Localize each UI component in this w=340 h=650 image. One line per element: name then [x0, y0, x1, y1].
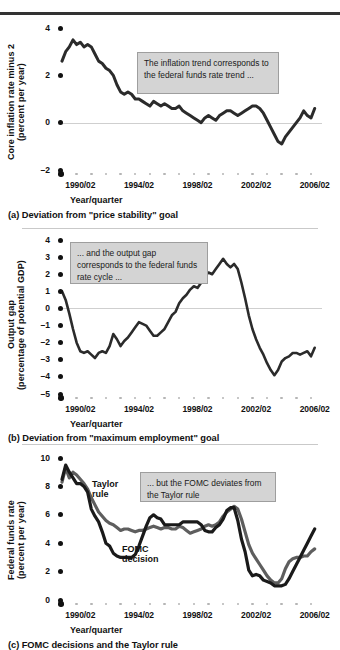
- panel-a-x-tick-dot-minor: [222, 173, 225, 176]
- panel-c-x-tick-dot-minor: [207, 603, 210, 606]
- panel-a-y-axis-label: Core inflation rate minus 2 (percent per…: [6, 28, 32, 176]
- panel-b-y-tick-label: –5: [30, 390, 50, 399]
- panel-a: Core inflation rate minus 2 (percent per…: [0, 22, 340, 212]
- panel-b-x-tick-dot-minor: [90, 397, 93, 400]
- panel-b-y-tick-dot: [58, 272, 63, 277]
- panel-c-x-tick-dot-minor: [119, 603, 122, 606]
- panel-b-x-tick-dot-minor: [237, 397, 240, 400]
- panel-c-x-tick-dot-minor: [310, 603, 313, 606]
- panel-a-x-tick-dot-minor: [90, 173, 93, 176]
- panel-c-x-tick-dot-minor: [134, 603, 137, 606]
- panel-a-x-tick-dot-minor: [295, 173, 298, 176]
- panel-b-y-tick-label: 4: [30, 236, 50, 245]
- panel-b-y-tick-label: 2: [30, 270, 50, 279]
- panel-b-x-tick-dot-minor: [105, 397, 108, 400]
- panel-a-x-tick-dot-minor: [149, 173, 152, 176]
- panel-a-x-tick-dot-minor: [119, 173, 122, 176]
- panel-a-callout: The inflation trend corresponds to the f…: [137, 52, 279, 94]
- panel-b-x-tick-dot-minor: [119, 397, 122, 400]
- panel-a-x-tick-label: 2006/02: [300, 180, 330, 190]
- panel-c-y-axis-label-line1: Federal funds rate: [6, 500, 16, 580]
- panel-b: Output gap (percentage of potential GDP)…: [0, 236, 340, 432]
- panel-a-x-tick-label: 1994/02: [124, 180, 154, 190]
- panel-c-x-tick-dot-minor: [280, 603, 283, 606]
- panel-c-y-tick-label: 6: [30, 510, 50, 519]
- panel-b-x-tick-dot-minor: [207, 397, 210, 400]
- panel-a-y-axis-label-line2: (percent per year): [16, 63, 26, 141]
- panel-a-x-axis-origin-dot: [58, 171, 64, 177]
- panel-b-x-tick-dot-minor: [310, 397, 313, 400]
- panel-b-y-axis-label: Output gap (percentage of potential GDP): [6, 240, 32, 410]
- panel-a-y-tick-dot: [58, 26, 63, 31]
- panel-c-y-tick-label: 4: [30, 539, 50, 548]
- panel-a-y-tick-label: –2: [30, 166, 50, 175]
- panel-c-y-axis-label: Federal funds rate (percent per year): [6, 474, 32, 606]
- panel-divider-rule-2: [22, 444, 318, 445]
- panel-c-x-tick-dot-minor: [163, 603, 166, 606]
- panel-a-y-tick-label: 2: [30, 71, 50, 80]
- panel-b-y-tick-label: 3: [30, 253, 50, 262]
- panel-b-y-tick-label: –2: [30, 338, 50, 347]
- panel-b-callout: ... and the output gap corresponds to th…: [70, 242, 208, 284]
- panel-a-x-tick-dot-minor: [163, 173, 166, 176]
- panel-a-x-tick-dot-minor: [310, 173, 313, 176]
- panel-b-x-tick-label: 1994/02: [124, 404, 154, 414]
- panel-a-y-tick-dot: [58, 73, 63, 78]
- panel-c-x-tick-dot-minor: [266, 603, 269, 606]
- panel-c-y-tick-label: 0: [30, 596, 50, 605]
- panel-b-caption: (b) Deviation from "maximum employment" …: [8, 433, 219, 443]
- panel-a-x-tick-dot-minor: [105, 173, 108, 176]
- panel-b-y-tick-dot: [58, 255, 63, 260]
- panel-b-y-tick-dot: [58, 306, 63, 311]
- panel-b-y-tick-dot: [58, 289, 63, 294]
- panel-b-x-tick-dot-minor: [193, 397, 196, 400]
- panel-a-y-tick-label: 4: [30, 24, 50, 33]
- top-divider-rule: [0, 12, 340, 15]
- panel-c-y-tick-dot: [58, 541, 63, 546]
- panel-a-x-tick-dot-minor: [178, 173, 181, 176]
- panel-c: Federal funds rate (percent per year) ..…: [0, 452, 340, 642]
- panel-c-x-tick-dot-minor: [75, 603, 78, 606]
- panel-b-x-tick-dot-minor: [178, 397, 181, 400]
- panel-c-x-tick-label: 1998/02: [182, 610, 212, 620]
- panel-a-x-tick-dot-minor: [237, 173, 240, 176]
- panel-b-y-tick-label: 1: [30, 287, 50, 296]
- panel-a-x-tick-dot-minor: [251, 173, 254, 176]
- panel-b-y-axis-label-line1: Output gap: [6, 301, 16, 350]
- panel-c-callout: ... but the FOMC deviates from the Taylo…: [140, 472, 276, 502]
- panel-a-plot-area: [62, 28, 322, 170]
- panel-a-x-tick-label: 1998/02: [182, 180, 212, 190]
- panel-b-x-tick-label: 1998/02: [182, 404, 212, 414]
- panel-b-y-tick-label: –1: [30, 321, 50, 330]
- panel-b-y-tick-label: –3: [30, 355, 50, 364]
- panel-c-x-axis-origin-dot: [58, 601, 64, 607]
- panel-c-y-axis-label-line2: (percent per year): [16, 501, 26, 579]
- panel-divider-rule-1: [22, 228, 318, 229]
- panel-b-x-tick-dot-minor: [149, 397, 152, 400]
- panel-b-x-tick-label: 2002/02: [241, 404, 271, 414]
- panel-c-x-tick-dot-minor: [251, 603, 254, 606]
- panel-a-x-tick-label: 1990/02: [65, 180, 95, 190]
- panel-c-x-tick-dot-minor: [193, 603, 196, 606]
- panel-c-x-tick-dot-minor: [90, 603, 93, 606]
- panel-a-series-canvas: [62, 28, 322, 170]
- panel-b-x-tick-dot-minor: [134, 397, 137, 400]
- panel-c-x-tick-dot-minor: [237, 603, 240, 606]
- panel-a-x-tick-dot-minor: [266, 173, 269, 176]
- panel-b-x-tick-dot-minor: [251, 397, 254, 400]
- panel-a-x-tick-dot-minor: [207, 173, 210, 176]
- panel-c-x-tick-dot-minor: [105, 603, 108, 606]
- panel-c-x-axis-title: Year/quarter: [70, 625, 123, 635]
- panel-c-taylor-rule-label: Taylor rule: [92, 479, 118, 500]
- panel-a-y-tick-label: 0: [30, 118, 50, 127]
- panel-b-x-tick-label: 1990/02: [65, 404, 95, 414]
- panel-c-x-tick-dot-minor: [149, 603, 152, 606]
- panel-a-y-axis-label-line1: Core inflation rate minus 2: [6, 44, 16, 160]
- panel-b-x-tick-dot-minor: [280, 397, 283, 400]
- panel-c-x-tick-dot-minor: [178, 603, 181, 606]
- panel-b-x-tick-dot-minor: [295, 397, 298, 400]
- panel-c-x-tick-label: 1990/02: [65, 610, 95, 620]
- panel-a-x-tick-label: 2002/02: [241, 180, 271, 190]
- panel-b-x-axis-origin-dot: [58, 395, 64, 401]
